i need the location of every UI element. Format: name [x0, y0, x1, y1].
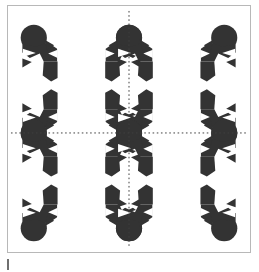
caption-tick-mark [7, 259, 9, 270]
figure-root [0, 0, 259, 272]
figure-frame [7, 5, 251, 253]
tessellation-pattern [8, 6, 250, 252]
